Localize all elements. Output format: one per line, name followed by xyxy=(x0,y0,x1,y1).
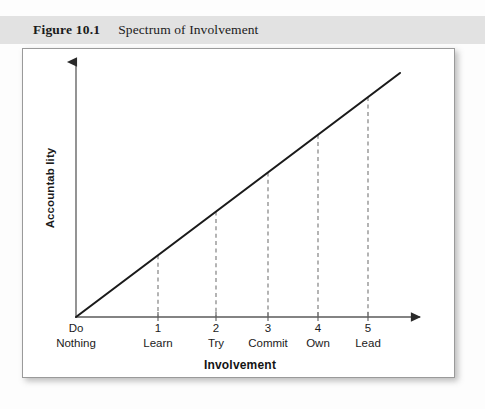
figure-title: Spectrum of Involvement xyxy=(118,22,258,37)
x-axis-title: Involvement xyxy=(160,358,320,372)
figure-caption-band: Figure 10.1Spectrum of Involvement xyxy=(0,16,485,44)
x-tick-word-lead: Lead xyxy=(331,336,405,351)
x-tick-word-nothing: Nothing xyxy=(39,336,113,351)
figure-caption: Figure 10.1Spectrum of Involvement xyxy=(33,22,258,38)
x-tick-label-do-nothing: Do Nothing xyxy=(39,321,113,350)
y-axis-title: Accountab lity xyxy=(44,128,60,248)
x-tick-word-do: Do xyxy=(39,321,113,336)
figure-number: Figure 10.1 xyxy=(33,22,100,37)
x-tick-number-5: 5 xyxy=(331,321,405,336)
x-tick-label-lead: 5 Lead xyxy=(331,321,405,350)
